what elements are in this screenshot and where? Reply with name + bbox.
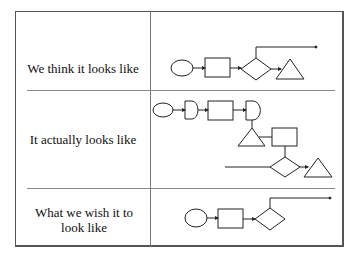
diagram-think <box>171 46 317 80</box>
process-diagrams <box>0 0 362 261</box>
process-rect-icon <box>205 58 230 77</box>
diagram-wish <box>185 197 331 230</box>
process-rect-icon <box>218 209 243 228</box>
delay-icon <box>246 101 260 120</box>
process-rect-icon <box>208 101 233 120</box>
start-ellipse-icon <box>171 60 193 76</box>
decision-diamond-icon <box>241 58 271 80</box>
start-ellipse-icon <box>153 103 173 117</box>
diagram-actual <box>153 101 332 177</box>
delay-icon <box>185 101 198 119</box>
decision-diamond-icon <box>255 208 285 230</box>
decision-diamond-icon <box>270 157 300 177</box>
start-ellipse-icon <box>185 209 207 227</box>
process-rect-icon <box>272 128 297 146</box>
merge-triangle-icon <box>304 158 332 177</box>
